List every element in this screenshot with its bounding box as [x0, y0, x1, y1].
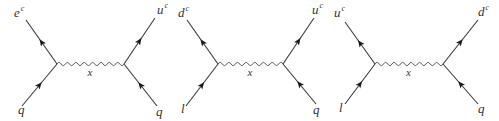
- particle-label-top-left: dc: [178, 4, 190, 20]
- particle-label-top-right: uc: [312, 1, 324, 17]
- arrow-icon: [39, 39, 45, 46]
- particle-label-top-left: uc: [334, 4, 346, 20]
- particle-label-bottom-right: q: [313, 102, 320, 117]
- particle-label-bottom-right: q: [478, 101, 485, 116]
- particle-label-bottom-left: q: [18, 102, 25, 117]
- mediator-label: x: [87, 66, 93, 78]
- arrow-icon: [200, 39, 206, 46]
- arrow-icon: [358, 40, 365, 47]
- diagram-3: xucldcq: [334, 3, 490, 116]
- arrow-icon: [135, 38, 141, 45]
- particle-label-top-left: ec: [14, 4, 25, 20]
- feynman-diagrams-canvas: xecqucqxdclucqxucldcq: [0, 0, 499, 121]
- arrow-icon: [138, 82, 145, 89]
- particle-label-top-right: dc: [478, 3, 490, 19]
- particle-label-top-right: uc: [157, 1, 169, 17]
- mediator-label: x: [247, 66, 253, 78]
- particle-label-bottom-left: l: [181, 101, 185, 116]
- arrow-icon: [456, 39, 463, 46]
- arrow-icon: [356, 81, 363, 88]
- particle-label-bottom-right: q: [156, 104, 163, 119]
- arrow-icon: [294, 38, 300, 45]
- mediator-label: x: [405, 66, 411, 78]
- diagram-2: xdclucq: [178, 1, 324, 117]
- particle-label-bottom-left: l: [339, 100, 343, 115]
- arrow-icon: [197, 82, 204, 89]
- diagram-1: xecqucq: [14, 1, 169, 119]
